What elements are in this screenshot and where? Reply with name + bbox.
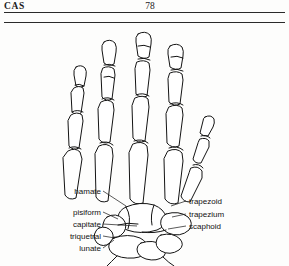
label-scaphoid: scaphoid: [189, 222, 221, 231]
finger-pinky: [63, 66, 86, 199]
page-number: 78: [128, 1, 172, 11]
label-trapezium: trapezium: [189, 210, 224, 219]
header-rule-top: [4, 12, 285, 13]
running-head-title: CAS: [4, 1, 25, 11]
label-lunate: lunate: [79, 244, 101, 253]
carpal-bones: [94, 203, 191, 260]
finger-index: [164, 44, 183, 204]
wrist-forearm: [107, 256, 174, 266]
thumb: [181, 116, 214, 202]
finger-ring: [95, 40, 116, 202]
label-pisiform: pisiform: [73, 208, 101, 217]
document-page: CAS 78: [0, 0, 289, 266]
hand-skeleton-figure: hamate pisiform capitate triquetral luna…: [0, 24, 289, 266]
label-capitate: capitate: [73, 220, 102, 229]
label-hamate: hamate: [74, 187, 101, 196]
finger-middle: [129, 32, 151, 204]
figure-labels-right: trapezoid trapezium scaphoid: [189, 197, 224, 231]
label-trapezoid: trapezoid: [189, 197, 222, 206]
header-rule-bottom: [4, 22, 285, 23]
label-triquetral: triquetral: [70, 232, 101, 241]
